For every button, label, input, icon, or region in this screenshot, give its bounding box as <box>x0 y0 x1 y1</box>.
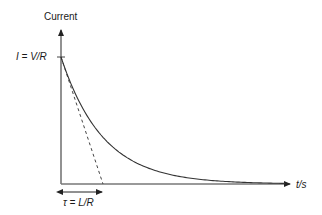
y-tick-label: I = V/R <box>16 52 47 62</box>
tau-label: τ = L/R <box>63 198 94 208</box>
decay-curve <box>61 57 285 183</box>
chart-canvas <box>0 0 322 215</box>
x-axis-label: t/s <box>296 180 307 190</box>
y-axis-label: Current <box>44 12 77 22</box>
